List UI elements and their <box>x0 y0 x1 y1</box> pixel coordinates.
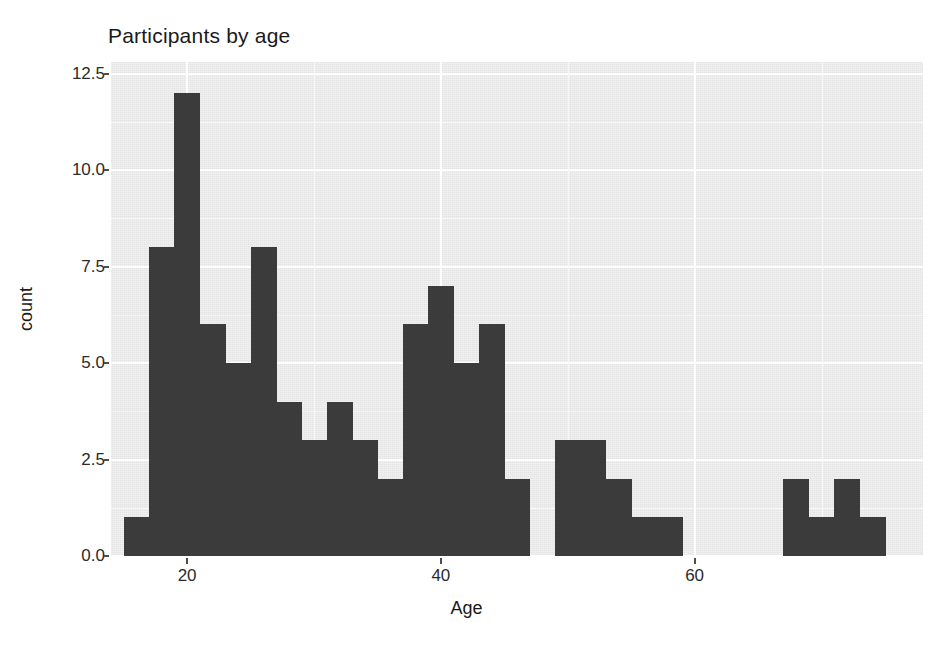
y-axis-tick-mark <box>104 169 109 171</box>
histogram-bar <box>783 479 809 556</box>
chart-title: Participants by age <box>108 24 290 48</box>
histogram-bar <box>454 363 480 556</box>
histogram-bar <box>657 517 683 556</box>
y-axis-tick-mark <box>104 555 109 557</box>
y-axis-tick-mark <box>104 266 109 268</box>
gridline-minor-y <box>111 315 923 316</box>
x-axis-tick-label: 20 <box>178 566 197 586</box>
x-axis-tick-label: 40 <box>431 566 450 586</box>
histogram-bar <box>251 247 277 556</box>
histogram-bar <box>834 479 860 556</box>
histogram-bar <box>124 517 150 556</box>
histogram-bar <box>377 479 403 556</box>
histogram-bar <box>403 324 429 556</box>
x-axis-tick-label: 60 <box>685 566 704 586</box>
x-axis-title: Age <box>0 598 933 619</box>
histogram-bar <box>200 324 226 556</box>
histogram-bar <box>352 440 378 556</box>
y-axis-title: count <box>16 287 37 331</box>
y-axis-tick-mark <box>104 459 109 461</box>
histogram-bar <box>479 324 505 556</box>
gridline-major-y <box>111 73 923 75</box>
histogram-bar <box>504 479 530 556</box>
histogram-bar <box>555 440 581 556</box>
histogram-bar <box>860 517 886 556</box>
gridline-major-y <box>111 266 923 268</box>
gridline-minor-y <box>111 122 923 123</box>
histogram-bar <box>580 440 606 556</box>
histogram-bar <box>327 402 353 556</box>
gridline-major-y <box>111 169 923 171</box>
gridline-minor-y <box>111 218 923 219</box>
gridline-major-x <box>694 62 696 556</box>
histogram-bar <box>276 402 302 556</box>
y-axis-tick-label: 10.0 <box>72 160 105 180</box>
histogram-bar <box>174 93 200 556</box>
plot-panel <box>111 62 923 556</box>
y-axis-tick-label: 12.5 <box>72 64 105 84</box>
x-axis-tick-mark <box>440 558 442 564</box>
histogram-bar <box>809 517 835 556</box>
y-axis-tick-mark <box>104 73 109 75</box>
histogram-bar <box>631 517 657 556</box>
histogram-bar <box>428 286 454 556</box>
y-axis-tick-label: 0.0 <box>81 546 105 566</box>
histogram-bar <box>225 363 251 556</box>
chart-root: Participants by age 0.02.55.07.510.012.5… <box>0 0 933 661</box>
y-axis-tick-label: 2.5 <box>81 450 105 470</box>
gridline-minor-x <box>822 62 823 556</box>
histogram-bar <box>301 440 327 556</box>
x-axis-tick-mark <box>694 558 696 564</box>
histogram-bar <box>149 247 175 556</box>
y-axis-tick-label: 7.5 <box>81 257 105 277</box>
x-axis-tick-mark <box>186 558 188 564</box>
y-axis-tick-mark <box>104 362 109 364</box>
y-axis-tick-label: 5.0 <box>81 353 105 373</box>
histogram-bar <box>606 479 632 556</box>
